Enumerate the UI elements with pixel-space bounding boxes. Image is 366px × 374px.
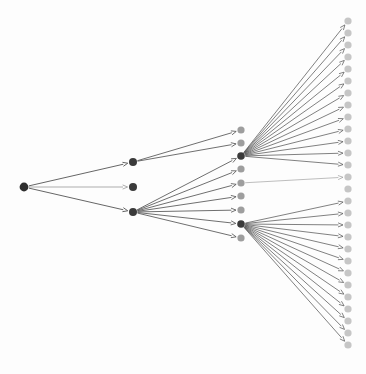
tree-node-c25[interactable] — [344, 317, 351, 324]
tree-node-a1[interactable] — [129, 183, 137, 191]
tree-edge — [245, 224, 338, 225]
tree-node-b8[interactable] — [237, 234, 244, 241]
tree-edge — [29, 164, 123, 186]
edge-arrowhead-icon — [339, 290, 344, 294]
edge-arrowhead-icon — [339, 84, 344, 88]
tree-diagram-canvas — [0, 0, 366, 374]
edge-arrowhead-icon — [231, 184, 236, 188]
edge-arrowhead-icon — [338, 223, 343, 227]
edge-arrowhead-icon — [338, 119, 343, 123]
tree-node-c8[interactable] — [344, 113, 351, 120]
tree-node-c4[interactable] — [344, 65, 351, 72]
tree-edge — [137, 185, 231, 210]
tree-node-b3[interactable] — [237, 165, 244, 172]
tree-edge — [244, 64, 341, 153]
tree-edge — [245, 178, 338, 183]
tree-node-c7[interactable] — [344, 101, 351, 108]
tree-edge — [245, 109, 339, 154]
tree-edge — [244, 52, 341, 153]
tree-edge — [245, 203, 338, 223]
tree-edge — [245, 225, 338, 247]
tree-node-c13[interactable] — [344, 173, 351, 180]
tree-node-c5[interactable] — [344, 77, 351, 84]
tree-node-c6[interactable] — [344, 89, 351, 96]
tree-node-c26[interactable] — [344, 329, 351, 336]
tree-node-c22[interactable] — [344, 281, 351, 288]
edge-arrowhead-icon — [231, 208, 236, 212]
tree-edge — [245, 226, 339, 269]
edge-arrowhead-icon — [339, 279, 344, 283]
edge-arrowhead-icon — [338, 140, 343, 144]
tree-edge — [137, 213, 231, 236]
tree-node-c1[interactable] — [344, 29, 351, 36]
edge-arrowhead-icon — [231, 131, 236, 135]
tree-edge — [245, 214, 338, 224]
edge-arrowhead-icon — [338, 267, 343, 271]
tree-edge — [137, 161, 232, 210]
tree-edge — [245, 98, 340, 154]
tree-node-c19[interactable] — [344, 245, 351, 252]
tree-edge — [244, 227, 341, 315]
tree-edge — [245, 156, 338, 164]
tree-node-b0[interactable] — [237, 126, 244, 133]
tree-node-c18[interactable] — [344, 233, 351, 240]
edge-arrowhead-icon — [338, 212, 343, 216]
edge-arrowhead-icon — [338, 176, 343, 180]
tree-node-b7[interactable] — [237, 220, 245, 228]
tree-node-c14[interactable] — [344, 185, 351, 192]
tree-node-c27[interactable] — [344, 341, 351, 348]
tree-node-c2[interactable] — [344, 41, 351, 48]
edges-layer — [29, 25, 345, 341]
edge-arrowhead-icon — [231, 234, 236, 238]
tree-node-b4[interactable] — [237, 179, 244, 186]
edge-arrowhead-icon — [338, 256, 343, 260]
tree-node-c21[interactable] — [344, 269, 351, 276]
tree-node-c17[interactable] — [344, 221, 351, 228]
tree-node-c24[interactable] — [344, 305, 351, 312]
tree-edge — [138, 213, 232, 223]
edge-arrowhead-icon — [231, 143, 236, 147]
edge-arrowhead-icon — [123, 185, 128, 189]
edge-arrowhead-icon — [231, 171, 236, 175]
tree-edge — [138, 210, 232, 212]
tree-node-b6[interactable] — [237, 206, 244, 213]
tree-node-c12[interactable] — [344, 161, 351, 168]
edge-arrowhead-icon — [341, 25, 345, 30]
tree-node-c16[interactable] — [344, 209, 351, 216]
edge-arrowhead-icon — [338, 151, 343, 155]
tree-node-c15[interactable] — [344, 197, 351, 204]
tree-node-c3[interactable] — [344, 53, 351, 60]
tree-node-b1[interactable] — [237, 139, 244, 146]
tree-node-c10[interactable] — [344, 137, 351, 144]
tree-node-b5[interactable] — [237, 192, 244, 199]
edge-arrowhead-icon — [338, 245, 343, 249]
tree-node-r0[interactable] — [20, 183, 29, 192]
edge-arrowhead-icon — [338, 162, 343, 166]
edge-arrowhead-icon — [338, 130, 343, 134]
edge-arrowhead-icon — [123, 208, 128, 212]
edge-arrowhead-icon — [231, 196, 236, 200]
edge-arrowhead-icon — [123, 162, 128, 166]
tree-edge — [244, 40, 342, 152]
tree-edge — [244, 227, 340, 303]
tree-node-c9[interactable] — [344, 125, 351, 132]
tree-node-a0[interactable] — [129, 158, 137, 166]
edge-arrowhead-icon — [338, 234, 343, 238]
tree-diagram-svg — [0, 0, 366, 374]
edge-arrowhead-icon — [339, 302, 344, 306]
tree-node-c11[interactable] — [344, 149, 351, 156]
edge-arrowhead-icon — [339, 96, 344, 100]
edge-arrowhead-icon — [338, 201, 343, 205]
nodes-layer — [20, 17, 352, 348]
tree-edge — [29, 188, 123, 210]
tree-node-c20[interactable] — [344, 257, 351, 264]
edge-arrowhead-icon — [231, 221, 236, 225]
tree-node-c0[interactable] — [344, 17, 351, 24]
tree-node-a2[interactable] — [129, 208, 137, 216]
tree-node-c23[interactable] — [344, 293, 351, 300]
tree-edge — [244, 75, 340, 153]
tree-node-b2[interactable] — [237, 152, 245, 160]
